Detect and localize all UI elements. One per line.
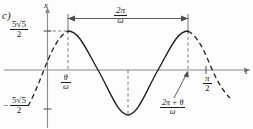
pi-over-two-fraction: π 2	[203, 74, 212, 94]
period-label: 2π ω	[114, 6, 127, 26]
phase-shift-label: θ ω	[61, 74, 71, 92]
period-denominator: ω	[114, 16, 127, 25]
figure-container: c) x t 5√5 2 − 5√5 2 θ ω 2π ω	[0, 0, 253, 129]
phase-shift-denominator: ω	[61, 83, 71, 91]
t-axis-label: t	[245, 67, 248, 76]
period-arrowhead-right	[181, 16, 188, 22]
period-fraction: 2π ω	[114, 6, 127, 26]
negative-amplitude-label: − 5√5 2	[3, 96, 28, 116]
x-axis-label: x	[44, 1, 48, 10]
positive-amplitude-fraction: 5√5 2	[10, 20, 28, 40]
second-peak-leader-line	[174, 73, 187, 98]
positive-amplitude-label: 5√5 2	[10, 20, 28, 40]
pi-over-two-denominator: 2	[203, 84, 212, 93]
period-arrowhead-left	[68, 16, 75, 22]
negative-amplitude-wrap: − 5√5 2	[3, 96, 28, 116]
positive-amplitude-denominator: 2	[10, 30, 28, 39]
negative-amplitude-denominator: 2	[10, 106, 28, 115]
negative-amplitude-sign: −	[3, 101, 10, 110]
phase-shift-fraction: θ ω	[61, 74, 71, 92]
second-peak-leader-arrowhead	[184, 71, 189, 78]
second-peak-denominator: ω	[160, 108, 185, 116]
pi-over-two-label: π 2	[203, 74, 212, 94]
second-peak-label: 2π + θ ω	[160, 99, 185, 117]
second-peak-fraction: 2π + θ ω	[160, 99, 185, 117]
negative-amplitude-fraction: 5√5 2	[10, 96, 28, 116]
